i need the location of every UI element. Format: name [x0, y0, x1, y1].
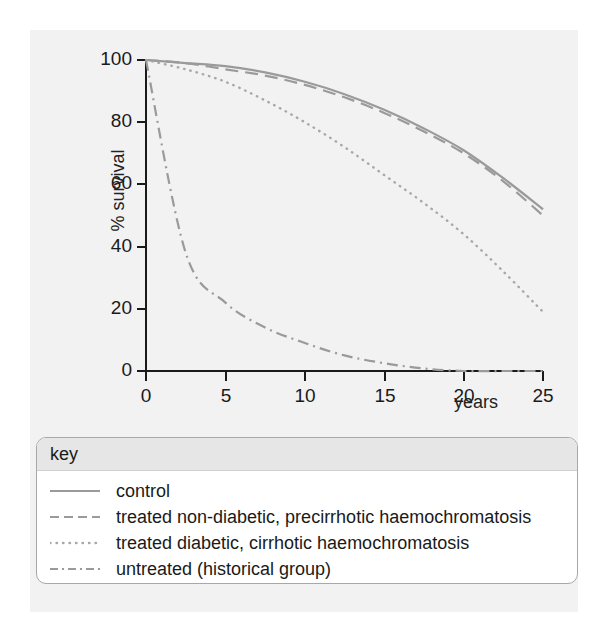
x-tick-label-5: 5 — [206, 385, 246, 407]
legend-label-untreated: untreated (historical group) — [116, 559, 331, 580]
legend-swatch-dashed-icon — [50, 510, 100, 524]
x-tick-label-0: 0 — [126, 385, 166, 407]
x-axis-title: years — [454, 392, 498, 413]
chart-panel: 100 80 60 40 20 0 0 5 10 15 20 25 % surv… — [30, 30, 578, 612]
series-line-untreated — [146, 60, 543, 371]
x-tick-label-15: 15 — [365, 385, 405, 407]
y-tick-label-80: 80 — [86, 110, 132, 132]
figure-root: 100 80 60 40 20 0 0 5 10 15 20 25 % surv… — [0, 0, 604, 642]
legend-title: key — [50, 444, 78, 465]
legend-label-treated-diabetic: treated diabetic, cirrhotic haemochromat… — [116, 533, 469, 554]
y-tick-label-0: 0 — [86, 359, 132, 381]
legend-item-control: control — [37, 478, 577, 504]
x-axis-ticks — [146, 371, 543, 381]
legend-swatch-solid-icon — [50, 484, 100, 498]
legend-label-treated-nondiabetic: treated non-diabetic, precirrhotic haemo… — [116, 507, 531, 528]
plot-area: 100 80 60 40 20 0 0 5 10 15 20 25 % surv… — [30, 30, 578, 430]
y-axis-ticks — [137, 60, 146, 371]
series-line-control — [146, 60, 543, 209]
legend-item-treated-nondiabetic: treated non-diabetic, precirrhotic haemo… — [37, 504, 577, 530]
legend-label-control: control — [116, 481, 170, 502]
legend-body: control treated non-diabetic, precirrhot… — [37, 471, 577, 582]
x-tick-label-10: 10 — [285, 385, 325, 407]
legend-header: key — [37, 438, 577, 471]
x-tick-label-25: 25 — [523, 385, 563, 407]
y-tick-label-20: 20 — [86, 297, 132, 319]
y-axis-title: % survival — [108, 131, 129, 251]
series-line-treated-nondiabetic — [146, 60, 543, 216]
legend-swatch-dashdot-icon — [50, 562, 100, 576]
legend-swatch-dotted-icon — [50, 536, 100, 550]
y-tick-label-100: 100 — [86, 48, 132, 70]
legend-item-treated-diabetic: treated diabetic, cirrhotic haemochromat… — [37, 530, 577, 556]
legend: key control — [36, 437, 578, 584]
legend-item-untreated: untreated (historical group) — [37, 556, 577, 582]
